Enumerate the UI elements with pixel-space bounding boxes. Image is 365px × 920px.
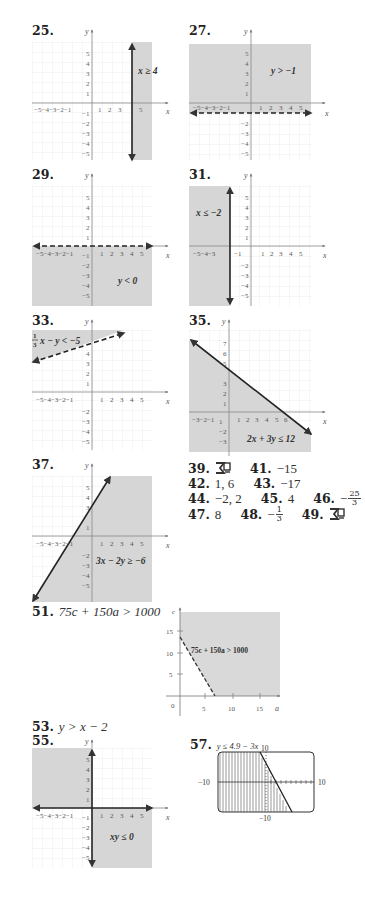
svg-text:4: 4	[245, 204, 249, 212]
answer-48-fraction: 13	[276, 506, 283, 523]
svg-text:5: 5	[140, 540, 144, 548]
svg-text:1: 1	[100, 812, 104, 820]
x-ticks-neg: −5−4−3−2−1	[193, 104, 231, 112]
svg-text:−4: −4	[82, 140, 90, 148]
svg-text:3: 3	[279, 250, 283, 258]
svg-text:7: 7	[223, 340, 227, 348]
svg-text:5: 5	[139, 106, 143, 114]
svg-text:3: 3	[86, 214, 90, 222]
svg-text:1: 1	[86, 234, 90, 242]
svg-text:3: 3	[118, 106, 122, 114]
svg-text:2: 2	[223, 390, 227, 398]
inequality-label: y < 0	[117, 276, 137, 286]
inequality-label: 2x + 3y ≤ 12	[246, 434, 295, 444]
x-axis-label: x	[165, 107, 170, 116]
x-ticks-neg: −5−4−3−2−1	[36, 396, 74, 404]
problem-51: 51. 75c + 150a > 1000	[32, 601, 160, 620]
svg-text:1: 1	[259, 104, 263, 112]
svg-text:4: 4	[245, 60, 249, 68]
svg-text:2: 2	[246, 416, 250, 424]
svg-text:−2: −2	[82, 262, 90, 270]
svg-text:5: 5	[245, 50, 249, 58]
svg-text:−5: −5	[241, 150, 249, 158]
svg-text:−5: −5	[82, 292, 90, 300]
svg-text:1: 1	[86, 524, 90, 532]
x-axis-label: x	[165, 541, 170, 550]
svg-text:4: 4	[130, 396, 134, 404]
svg-text:1: 1	[245, 234, 249, 242]
svg-text:5: 5	[86, 756, 90, 764]
svg-text:1: 1	[86, 796, 90, 804]
window-xmin: −10	[198, 778, 210, 787]
svg-text:−5−4−3: −5−4−3	[193, 250, 216, 258]
svg-text:10: 10	[228, 705, 236, 713]
answer-48-sign: −	[267, 507, 274, 522]
x-axis-label: x	[324, 109, 329, 118]
x-ticks-neg: −5−4−3−2−1	[36, 812, 74, 820]
svg-text:3: 3	[120, 540, 124, 548]
c-axis-label: c	[172, 608, 176, 616]
svg-text:4: 4	[289, 104, 293, 112]
svg-text:4: 4	[265, 416, 269, 424]
svg-text:2: 2	[110, 540, 114, 548]
y-axis-label: y	[84, 317, 89, 326]
svg-text:1: 1	[219, 418, 223, 426]
svg-text:−2: −2	[82, 824, 90, 832]
svg-text:2: 2	[245, 224, 249, 232]
svg-text:5: 5	[140, 396, 144, 404]
window-ymin: −10	[259, 814, 271, 823]
svg-text:−1: −1	[234, 250, 242, 258]
svg-text:−3: −3	[82, 834, 90, 842]
svg-text:4: 4	[86, 350, 90, 358]
answer-51: 75c + 150a > 1000	[59, 604, 160, 619]
x-ticks-neg: −5−4−3−2−1	[34, 106, 72, 114]
answer-47: 8	[215, 507, 222, 522]
shaded-region-quadrant-2	[32, 748, 92, 808]
svg-text:−3: −3	[82, 130, 90, 138]
svg-text:5: 5	[299, 104, 303, 112]
shaded-region	[132, 42, 152, 160]
svg-text:3: 3	[120, 812, 124, 820]
svg-text:−1: −1	[82, 252, 90, 260]
svg-text:2: 2	[269, 104, 273, 112]
svg-text:−3: −3	[82, 272, 90, 280]
x-axis-label: x	[165, 397, 170, 406]
svg-text:1: 1	[98, 106, 102, 114]
svg-text:5: 5	[202, 705, 206, 713]
svg-text:1: 1	[86, 380, 90, 388]
graph-51: c a 15105 051015 75c + 150a > 1000	[160, 604, 285, 719]
svg-text:−2: −2	[241, 262, 249, 270]
svg-text:2: 2	[86, 224, 90, 232]
svg-text:2: 2	[108, 106, 112, 114]
y-axis-label: y	[84, 461, 89, 470]
svg-text:4: 4	[86, 204, 90, 212]
svg-text:3: 3	[245, 70, 249, 78]
svg-text:2: 2	[86, 786, 90, 794]
svg-text:−4: −4	[241, 282, 249, 290]
svg-text:3: 3	[223, 380, 227, 388]
problem-number-51: 51.	[32, 604, 54, 619]
svg-text:3: 3	[86, 504, 90, 512]
svg-text:−2: −2	[82, 408, 90, 416]
x-axis-label: x	[165, 251, 170, 260]
x-axis-label: x	[322, 251, 327, 260]
fraction-numerator: 1	[33, 332, 37, 340]
svg-text:3: 3	[86, 776, 90, 784]
inequality-label: x ≤ −2	[195, 208, 221, 218]
svg-text:1: 1	[261, 250, 265, 258]
svg-text:5: 5	[86, 194, 90, 202]
graph-55: y x −5−4−3−2−1 12345 12345 −1−2−3−4−5 xy…	[28, 736, 178, 871]
svg-text:3: 3	[255, 416, 259, 424]
svg-text:−2: −2	[82, 552, 90, 560]
svg-text:5: 5	[299, 250, 303, 258]
svg-text:−4: −4	[82, 844, 90, 852]
svg-text:2: 2	[110, 812, 114, 820]
svg-text:2: 2	[245, 80, 249, 88]
svg-text:−1: −1	[82, 110, 90, 118]
svg-text:−3−2−1: −3−2−1	[192, 416, 215, 424]
svg-text:3: 3	[245, 214, 249, 222]
a-axis-label: a	[275, 704, 279, 713]
svg-text:−3: −3	[241, 272, 249, 280]
x-axis-label: x	[165, 813, 170, 822]
svg-text:−5: −5	[241, 292, 249, 300]
